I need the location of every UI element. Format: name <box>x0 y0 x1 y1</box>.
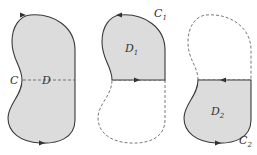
dashed-upper-outline <box>188 15 251 80</box>
curve-label-c: C <box>10 74 19 87</box>
region-decomposition-diagram: C D C1 D1 C2 D2 <box>0 0 257 155</box>
region-label-d: D <box>41 74 51 87</box>
panel-upper-region: C1 D1 <box>98 7 167 143</box>
curve-label-c1: C1 <box>154 7 167 22</box>
panel-whole-region: C D <box>8 13 75 146</box>
panel-lower-region: C2 D2 <box>184 15 252 149</box>
dashed-lower-outline <box>98 80 165 143</box>
curve-label-c2: C2 <box>239 134 252 149</box>
